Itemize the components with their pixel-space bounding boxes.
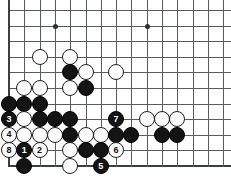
stone-white[interactable] xyxy=(169,111,185,127)
move-number-label: 8 xyxy=(6,145,11,154)
stone-white[interactable] xyxy=(32,127,48,143)
move-number-label: 3 xyxy=(6,114,11,123)
stone-white[interactable] xyxy=(62,158,78,174)
stone-black[interactable] xyxy=(16,96,32,112)
stone-move-3[interactable]: 3 xyxy=(1,111,17,127)
stone-white[interactable] xyxy=(62,142,78,158)
stone-white[interactable] xyxy=(108,64,124,80)
move-number-label: 6 xyxy=(114,145,119,154)
stone-white[interactable] xyxy=(93,127,109,143)
stone-move-2[interactable]: 2 xyxy=(32,142,48,158)
stone-white[interactable] xyxy=(139,111,155,127)
stone-white[interactable] xyxy=(62,49,78,65)
stone-black[interactable] xyxy=(62,127,78,143)
stone-white[interactable] xyxy=(62,80,78,96)
stone-white[interactable] xyxy=(32,80,48,96)
stone-black[interactable] xyxy=(16,158,32,174)
stone-white[interactable] xyxy=(78,127,94,143)
stone-black[interactable] xyxy=(62,111,78,127)
stone-black[interactable] xyxy=(32,111,48,127)
stone-black[interactable] xyxy=(62,64,78,80)
stone-black[interactable] xyxy=(123,127,139,143)
stone-move-8[interactable]: 8 xyxy=(1,142,17,158)
stone-black[interactable] xyxy=(78,80,94,96)
stone-black[interactable] xyxy=(154,127,170,143)
stone-white[interactable] xyxy=(78,64,94,80)
move-number-label: 7 xyxy=(114,114,119,123)
stone-layer[interactable]: 37481265 xyxy=(0,0,231,181)
move-number-label: 2 xyxy=(37,145,42,154)
move-number-label: 4 xyxy=(6,130,11,139)
stone-white[interactable] xyxy=(154,111,170,127)
stone-white[interactable] xyxy=(47,127,63,143)
stone-black[interactable] xyxy=(1,96,17,112)
move-number-label: 1 xyxy=(22,145,27,154)
stone-black[interactable] xyxy=(108,127,124,143)
go-board[interactable]: 37481265 xyxy=(0,0,231,181)
stone-black[interactable] xyxy=(169,127,185,143)
stone-white[interactable] xyxy=(16,111,32,127)
stone-move-1[interactable]: 1 xyxy=(16,142,32,158)
stone-white[interactable] xyxy=(16,127,32,143)
stone-black[interactable] xyxy=(93,142,109,158)
move-number-label: 5 xyxy=(98,161,103,170)
stone-white[interactable] xyxy=(32,49,48,65)
stone-black[interactable] xyxy=(78,142,94,158)
stone-black[interactable] xyxy=(32,96,48,112)
stone-move-6[interactable]: 6 xyxy=(108,142,124,158)
stone-move-5[interactable]: 5 xyxy=(93,158,109,174)
stone-white[interactable] xyxy=(16,80,32,96)
stone-black[interactable] xyxy=(47,111,63,127)
stone-move-4[interactable]: 4 xyxy=(1,127,17,143)
stone-move-7[interactable]: 7 xyxy=(108,111,124,127)
